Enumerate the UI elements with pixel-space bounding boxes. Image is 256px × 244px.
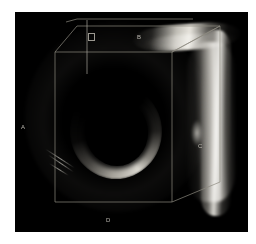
bounding-box-wireframe: [15, 12, 248, 232]
axis-label-b: B: [137, 34, 141, 40]
axis-label-a: A: [21, 124, 25, 130]
top-bracket-line: [66, 19, 193, 22]
volume-render-panel[interactable]: B C A D: [15, 12, 248, 232]
cube-right-face: [172, 26, 220, 202]
axis-label-d: D: [106, 217, 111, 223]
slice-marker[interactable]: [88, 33, 95, 41]
cube-front-face: [55, 52, 172, 202]
figure-root: B C A D: [0, 0, 256, 244]
axis-label-c: C: [198, 143, 203, 149]
